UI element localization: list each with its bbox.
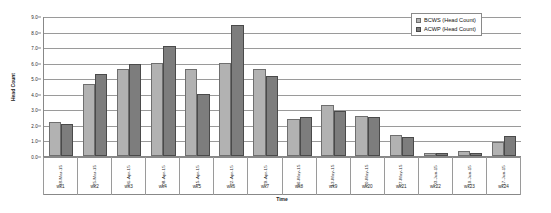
x-axis-week-cell: wk20: [351, 177, 385, 195]
bar-acwp: [163, 46, 175, 156]
bar-acwp: [61, 124, 73, 156]
y-tick-label: 9.0: [31, 15, 38, 20]
y-tick-label: 6.0: [31, 61, 38, 66]
bar-bcws: [83, 84, 95, 156]
bar-bcws: [355, 116, 367, 156]
x-axis-week-cell: wk23: [453, 177, 487, 195]
x-axis-week-label: wk1: [56, 184, 64, 189]
bar-group: [351, 17, 385, 156]
y-tick-label: 0.0: [31, 155, 38, 160]
bar-group: [146, 17, 180, 156]
y-tick-mark: [38, 17, 41, 18]
chart-legend: BCWS (Head Count) ACWP (Head Count): [411, 13, 482, 36]
bar-acwp: [197, 94, 209, 156]
y-tick-mark: [38, 32, 41, 33]
x-axis-week-band: wk1wk2wk3wk4wk5wk6wk7wk8wk9wk20wk21wk22w…: [43, 177, 521, 195]
x-axis-week-label: wk21: [396, 184, 407, 189]
y-tick-label: 1.0: [31, 139, 38, 144]
y-tick-mark: [38, 125, 41, 126]
bar-acwp: [470, 153, 482, 156]
y-tick-label: 4.0: [31, 92, 38, 97]
bar-bcws: [321, 105, 333, 156]
bar-bcws: [253, 69, 265, 156]
x-axis-week-cell: wk24: [487, 177, 521, 195]
bar-group: [44, 17, 78, 156]
y-tick-label: 2.0: [31, 123, 38, 128]
x-axis-week-cell: wk8: [283, 177, 317, 195]
bar-acwp: [504, 136, 516, 156]
x-axis-week-cell: wk6: [214, 177, 248, 195]
legend-label-acwp: ACWP (Head Count): [424, 26, 476, 32]
bar-bcws: [458, 151, 470, 156]
bar-group: [78, 17, 112, 156]
x-axis-week-cell: wk4: [146, 177, 180, 195]
x-axis-week-label: wk22: [430, 184, 441, 189]
bar-bcws: [185, 69, 197, 156]
plot-area: [43, 17, 521, 157]
bar-acwp: [129, 64, 141, 156]
bar-group: [283, 17, 317, 156]
y-tick-label: 8.0: [31, 30, 38, 35]
legend-label-bcws: BCWS (Head Count): [424, 17, 476, 23]
y-tick-mark: [38, 63, 41, 64]
x-axis-week-label: wk7: [261, 184, 269, 189]
bar-group: [248, 17, 282, 156]
x-axis-week-cell: wk3: [112, 177, 146, 195]
bar-bcws: [117, 69, 129, 156]
x-axis-week-label: wk8: [295, 184, 303, 189]
y-tick-label: 7.0: [31, 46, 38, 51]
bar-acwp: [402, 137, 414, 156]
x-axis-week-cell: wk9: [317, 177, 351, 195]
x-axis-week-label: wk9: [329, 184, 337, 189]
bar-bcws: [151, 63, 163, 156]
bar-bcws: [287, 119, 299, 156]
y-tick-mark: [38, 94, 41, 95]
bar-acwp: [231, 25, 243, 156]
bar-group: [453, 17, 487, 156]
bar-acwp: [95, 74, 107, 156]
x-axis-week-label: wk3: [125, 184, 133, 189]
x-axis-week-cell: wk1: [43, 177, 78, 195]
bar-bcws: [219, 63, 231, 156]
y-tick-label: 3.0: [31, 108, 38, 113]
bar-group: [112, 17, 146, 156]
bar-acwp: [266, 76, 278, 156]
bar-bcws: [390, 135, 402, 156]
y-tick-mark: [38, 79, 41, 80]
bar-acwp: [300, 117, 312, 156]
bar-group: [487, 17, 521, 156]
x-axis-week-cell: wk7: [248, 177, 282, 195]
y-tick-label: 5.0: [31, 77, 38, 82]
legend-swatch-bcws: [416, 18, 421, 23]
bar-group: [317, 17, 351, 156]
bar-chart: Head Count 9.08.07.06.05.04.03.02.01.00.…: [0, 0, 551, 213]
bar-acwp: [368, 117, 380, 156]
x-axis-week-cell: wk21: [385, 177, 419, 195]
bar-group: [385, 17, 419, 156]
legend-item-bcws: BCWS (Head Count): [416, 17, 476, 23]
bar-groups: [44, 17, 521, 156]
legend-swatch-acwp: [416, 27, 421, 32]
x-axis-week-cell: wk2: [78, 177, 112, 195]
bar-group: [419, 17, 453, 156]
x-axis-title: Time: [43, 196, 521, 202]
x-axis-week-cell: wk5: [180, 177, 214, 195]
x-axis-week-label: wk23: [464, 184, 475, 189]
bar-group: [180, 17, 214, 156]
bar-bcws: [49, 122, 61, 156]
legend-item-acwp: ACWP (Head Count): [416, 26, 476, 32]
y-axis-ticks: 9.08.07.06.05.04.03.02.01.00.0: [0, 17, 41, 158]
y-tick-mark: [38, 157, 41, 158]
y-tick-mark: [38, 110, 41, 111]
bar-acwp: [334, 111, 346, 156]
x-axis-week-label: wk4: [159, 184, 167, 189]
x-axis-week-label: wk24: [498, 184, 509, 189]
y-tick-mark: [38, 141, 41, 142]
x-axis-week-label: wk2: [91, 184, 99, 189]
x-axis-week-cell: wk22: [419, 177, 453, 195]
bar-bcws: [492, 142, 504, 156]
bar-group: [214, 17, 248, 156]
x-axis-week-label: wk6: [227, 184, 235, 189]
bar-bcws: [424, 153, 436, 156]
x-axis-week-label: wk5: [193, 184, 201, 189]
